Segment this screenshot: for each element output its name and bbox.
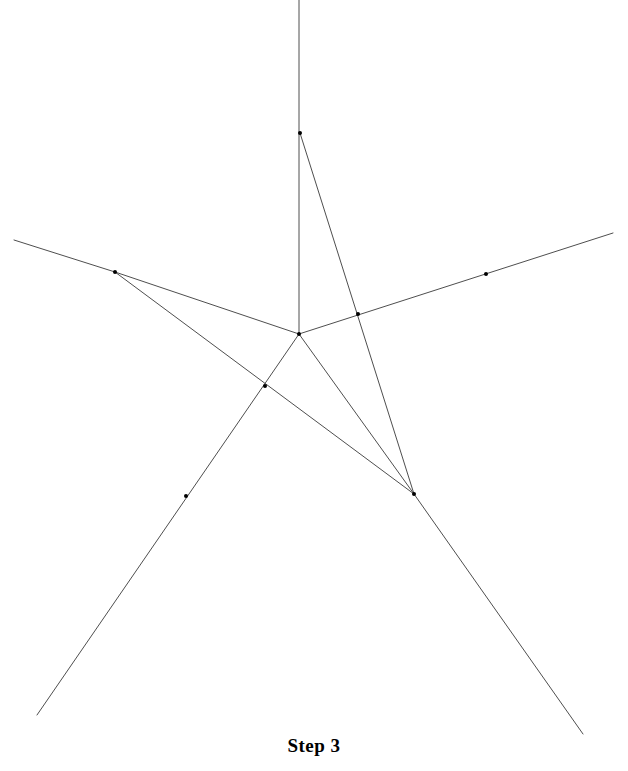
figure-page: Step 3 <box>0 0 628 771</box>
crossing-left <box>263 384 267 388</box>
vertex-lower-right <box>412 492 416 496</box>
crossing-right <box>356 312 360 316</box>
geometric-figure <box>0 0 628 771</box>
figure-caption: Step 3 <box>0 735 628 757</box>
vertex-left <box>113 270 117 274</box>
figure-background <box>0 0 628 771</box>
vertex-top <box>298 131 302 135</box>
point-on-right-ray <box>484 272 488 276</box>
vertex-center <box>297 332 301 336</box>
point-on-lower-left-ray <box>184 494 188 498</box>
